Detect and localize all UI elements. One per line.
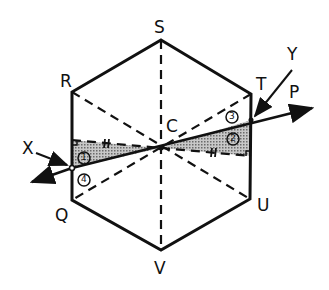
region-label-2: 2 [230,134,236,143]
line-xp [32,168,72,182]
line-label-y: Y [287,46,297,63]
vertex-label-q: Q [55,207,68,224]
pointer-x [36,153,67,165]
region-label-1: 1 [81,153,87,162]
vertex-label-u: U [257,197,269,214]
vertex-label-t: T [256,76,266,93]
vertex-label-r: R [60,73,72,90]
line-label-x: X [22,140,34,157]
vertex-label-v: V [154,260,166,277]
point-y [249,118,254,123]
point-c [159,146,164,151]
point-x [70,166,75,171]
line-through-c [72,108,312,168]
region-label-3: 3 [229,112,235,121]
diagram-figure [0,0,329,290]
point-on-p [295,110,300,115]
region-label-4: 4 [81,175,87,184]
line-label-p: P [289,84,299,101]
center-label-c: C [166,118,178,135]
hexagon-diagram: S R T Q U V C X Y P 1 2 3 4 [0,0,329,290]
vertex-label-s: S [154,19,165,36]
